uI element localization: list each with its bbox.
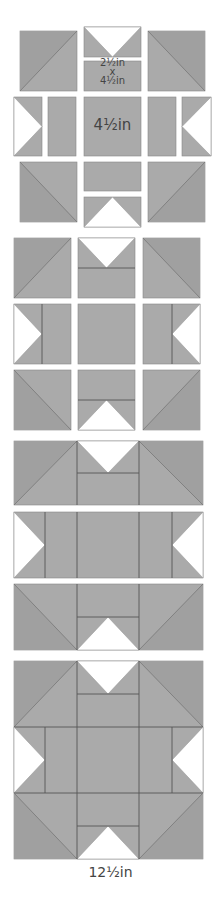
step4-finished-block <box>14 661 203 859</box>
step3-rows <box>14 441 203 650</box>
finished-size-label: 12½in <box>0 864 221 880</box>
step2-grid <box>14 238 200 430</box>
rect-height-label: 4½in <box>84 76 141 85</box>
rectangle-size-label: 2½in x 4½in <box>84 58 141 85</box>
center-square-label: 4½in <box>84 116 141 134</box>
quilt-diagram: .g{fill:#aaaaaa;stroke:#888;stroke-width… <box>0 0 221 911</box>
